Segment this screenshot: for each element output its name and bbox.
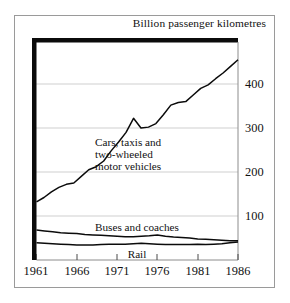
series-line-rail: [37, 242, 239, 245]
y-tick-200: 200: [245, 165, 264, 179]
x-tick-1971: 1971: [105, 264, 130, 278]
x-tick-1961: 1961: [24, 264, 49, 278]
figure-root: Billion passenger kilometres: [0, 0, 290, 303]
series-label-cars-line2: two-wheeled: [95, 148, 153, 160]
x-tick-1976: 1976: [145, 264, 170, 278]
series-label-cars-line3: motor vehicles: [95, 160, 161, 172]
x-axis-tick-labels: 1961 1966 1971 1976 1981 1986: [24, 264, 251, 278]
y-tick-300: 300: [245, 121, 264, 135]
y-tick-400: 400: [245, 77, 264, 91]
series-label-rail: Rail: [128, 248, 147, 260]
x-tick-1966: 1966: [65, 264, 90, 278]
x-tick-1986: 1986: [226, 264, 251, 278]
series-label-cars-line1: Cars, taxis and: [95, 136, 162, 148]
series-label-buses: Buses and coaches: [95, 221, 179, 233]
series-labels: Cars, taxis and two-wheeled motor vehicl…: [95, 136, 179, 260]
y-tick-100: 100: [245, 209, 264, 223]
series-line-cars: [37, 60, 239, 202]
y-axis-tick-labels: 400 300 200 100: [245, 77, 264, 223]
chart-plot-area: 400 300 200 100 1961 1966 1971 1976 1981…: [0, 0, 290, 303]
x-tick-1981: 1981: [186, 264, 211, 278]
